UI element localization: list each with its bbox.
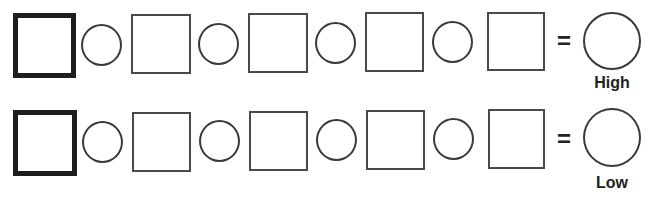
result-label-low: Low bbox=[582, 174, 642, 192]
answer-box[interactable] bbox=[249, 111, 308, 171]
operator-circle[interactable] bbox=[315, 22, 356, 64]
operator-circle[interactable] bbox=[433, 118, 474, 160]
answer-box-start[interactable] bbox=[13, 13, 76, 78]
operator-circle[interactable] bbox=[82, 121, 123, 163]
result-circle[interactable] bbox=[583, 12, 641, 70]
operator-circle[interactable] bbox=[316, 119, 357, 161]
answer-box[interactable] bbox=[487, 12, 545, 71]
operator-circle[interactable] bbox=[199, 120, 240, 162]
equals-sign: = bbox=[557, 127, 571, 151]
answer-box[interactable] bbox=[365, 12, 424, 72]
answer-box[interactable] bbox=[132, 112, 191, 172]
operator-circle[interactable] bbox=[81, 24, 122, 66]
result-circle[interactable] bbox=[583, 108, 641, 167]
operator-circle[interactable] bbox=[198, 23, 239, 65]
answer-box-start[interactable] bbox=[13, 110, 77, 176]
answer-box[interactable] bbox=[248, 13, 308, 73]
answer-box[interactable] bbox=[366, 110, 425, 170]
result-label-high: High bbox=[582, 74, 642, 92]
operator-circle[interactable] bbox=[432, 21, 473, 63]
equals-sign: = bbox=[557, 29, 571, 53]
answer-box[interactable] bbox=[131, 14, 191, 74]
answer-box[interactable] bbox=[488, 109, 545, 169]
